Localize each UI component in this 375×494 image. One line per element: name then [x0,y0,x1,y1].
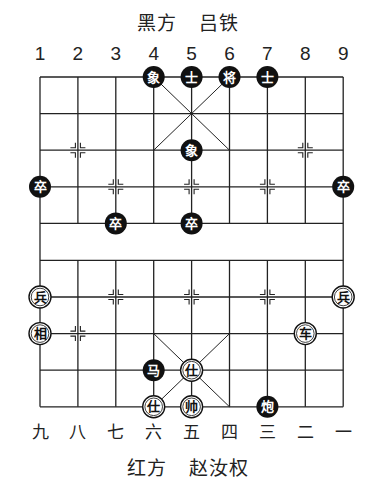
red-piece[interactable]: 兵 [29,286,51,308]
piece-label: 将 [223,70,236,85]
marker-corner [194,290,199,295]
marker-corner [108,290,113,295]
black-piece[interactable]: 卒 [332,176,354,198]
piece-label: 相 [34,326,47,341]
marker-corner [80,336,85,341]
piece-label: 仕 [146,399,160,414]
top-column-label: 8 [300,43,311,64]
marker-corner [260,300,265,305]
marker-corner [108,179,113,184]
black-piece[interactable]: 卒 [181,212,203,234]
red-side-label: 红方 [127,453,167,480]
xiangqi-board: 123456789 九八七六五四三二一 象士将士象卒卒卒卒兵兵相车马仕仕帅炮 [0,0,375,494]
top-column-label: 9 [338,43,349,64]
bottom-column-labels: 九八七六五四三二一 [32,422,352,442]
marker-corner [184,300,189,305]
piece-label: 卒 [34,179,47,194]
marker-corner [118,179,123,184]
marker-corner [70,326,75,331]
black-piece[interactable]: 士 [181,66,203,88]
top-column-label: 1 [35,43,46,64]
marker-corner [298,143,303,148]
marker-corner [184,189,189,194]
black-piece[interactable]: 炮 [256,396,278,418]
red-piece[interactable]: 仕 [143,396,165,418]
marker-corner [260,189,265,194]
piece-label: 卒 [185,216,198,231]
marker-corner [108,300,113,305]
marker-corner [70,143,75,148]
piece-label: 象 [147,70,160,85]
piece-label: 车 [299,326,312,341]
red-player-name: 赵汝权 [189,453,249,480]
top-column-label: 2 [73,43,84,64]
red-side-title: 红方赵汝权 [0,453,375,480]
marker-corner [194,179,199,184]
bottom-column-label: 四 [221,422,238,442]
marker-corner [80,153,85,158]
marker-corner [108,189,113,194]
marker-corner [80,326,85,331]
red-piece[interactable]: 兵 [332,286,354,308]
piece-label: 士 [261,70,274,85]
marker-corner [118,189,123,194]
top-column-labels: 123456789 [35,43,349,64]
piece-label: 帅 [185,399,198,414]
marker-corner [260,290,265,295]
piece-label: 士 [185,70,198,85]
piece-label: 卒 [109,216,122,231]
piece-label: 兵 [34,290,47,305]
marker-corner [260,179,265,184]
marker-corner [270,300,275,305]
red-piece[interactable]: 相 [29,323,51,345]
red-piece[interactable]: 仕 [181,359,203,381]
marker-corner [70,336,75,341]
bottom-column-label: 七 [107,422,124,442]
marker-corner [308,143,313,148]
red-piece[interactable]: 帅 [181,396,203,418]
marker-corner [194,189,199,194]
marker-corner [70,153,75,158]
bottom-column-label: 一 [335,422,352,442]
bottom-column-label: 九 [32,422,49,442]
top-column-label: 7 [262,43,273,64]
black-piece[interactable]: 马 [143,359,165,381]
black-piece[interactable]: 象 [143,66,165,88]
marker-corner [184,290,189,295]
marker-corner [118,300,123,305]
marker-corner [270,179,275,184]
marker-corner [184,179,189,184]
bottom-column-label: 二 [297,422,314,442]
black-piece[interactable]: 士 [256,66,278,88]
board-grid [40,77,343,407]
marker-corner [270,290,275,295]
marker-corner [308,153,313,158]
piece-label: 马 [147,363,160,378]
black-piece[interactable]: 将 [219,66,241,88]
piece-label: 仕 [184,363,198,378]
marker-corner [270,189,275,194]
marker-corner [298,153,303,158]
bottom-column-label: 六 [145,422,162,442]
bottom-column-label: 五 [183,422,200,442]
black-piece[interactable]: 卒 [29,176,51,198]
piece-label: 象 [185,143,198,158]
marker-corner [118,290,123,295]
bottom-column-label: 三 [259,422,276,442]
piece-label: 卒 [337,179,350,194]
bottom-column-label: 八 [69,422,86,442]
piece-label: 炮 [261,399,274,414]
piece-label: 兵 [337,290,350,305]
red-piece[interactable]: 车 [294,323,316,345]
top-column-label: 5 [186,43,197,64]
top-column-label: 4 [148,43,159,64]
marker-corner [194,300,199,305]
black-piece[interactable]: 卒 [105,212,127,234]
top-column-label: 3 [111,43,122,64]
black-piece[interactable]: 象 [181,139,203,161]
marker-corner [80,143,85,148]
top-column-label: 6 [224,43,235,64]
